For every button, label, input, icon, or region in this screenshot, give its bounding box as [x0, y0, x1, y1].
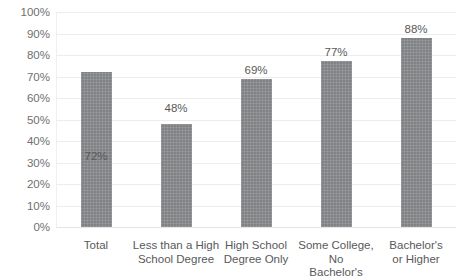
- bar-value-label: 69%: [216, 64, 296, 76]
- bar-bachelors-or-higher[interactable]: [401, 38, 432, 227]
- y-tick-label: 100%: [0, 6, 50, 18]
- y-tick-label: 40%: [0, 135, 50, 147]
- y-tick-label: 70%: [0, 71, 50, 83]
- y-tick-label: 20%: [0, 178, 50, 190]
- y-tick-label: 60%: [0, 92, 50, 104]
- x-axis-baseline: [56, 227, 456, 228]
- bar-value-label: 48%: [136, 102, 216, 114]
- bar-value-label: 72%: [56, 150, 136, 162]
- gridline: [56, 77, 456, 78]
- y-tick-label: 30%: [0, 157, 50, 169]
- bar-some-college[interactable]: [321, 61, 352, 227]
- gridline: [56, 12, 456, 13]
- bar-value-label: 77%: [296, 46, 376, 58]
- gridline: [56, 55, 456, 56]
- category-label-total: Total: [56, 239, 136, 253]
- y-tick-label: 10%: [0, 200, 50, 212]
- category-label-some-college: Some College, NoBachelor's: [292, 239, 380, 280]
- category-label-less-than-hs: Less than a HighSchool Degree: [132, 239, 220, 266]
- bar-hs-only[interactable]: [241, 79, 272, 227]
- y-tick-label: 0%: [0, 221, 50, 233]
- plot-area: 72% 48% 69% 77% 88%: [56, 12, 456, 227]
- category-label-bachelors-or-higher: Bachelor'sor Higher: [376, 239, 456, 266]
- category-label-hs-only: High SchoolDegree Only: [216, 239, 296, 266]
- y-tick-label: 80%: [0, 49, 50, 61]
- y-tick-label: 90%: [0, 28, 50, 40]
- y-tick-label: 50%: [0, 114, 50, 126]
- y-axis-tick-labels: 100% 90% 80% 70% 60% 50% 40% 30% 20% 10%…: [0, 0, 50, 275]
- bar-less-than-hs[interactable]: [161, 124, 192, 227]
- bar-value-label: 88%: [376, 23, 456, 35]
